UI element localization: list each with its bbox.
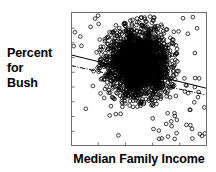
- scatter-point: [168, 95, 172, 99]
- scatter-point: [117, 134, 121, 138]
- scatter-point: [114, 112, 118, 116]
- scatter-point: [181, 16, 185, 20]
- scatter-point: [166, 111, 170, 115]
- scatter-point: [89, 25, 93, 29]
- scatter-point: [109, 104, 113, 108]
- scatter-point: [166, 135, 170, 139]
- scatter-point: [193, 51, 197, 55]
- scatter-point: [119, 112, 123, 116]
- scatter-points-layer: [72, 14, 207, 141]
- scatter-point: [193, 76, 197, 80]
- scatter-point: [114, 24, 118, 28]
- scatter-point: [164, 122, 168, 126]
- scatter-point: [116, 92, 120, 96]
- scatter-point: [105, 80, 109, 84]
- scatter-point: [152, 127, 156, 131]
- scatter-point: [128, 104, 132, 108]
- scatter-point: [160, 137, 164, 141]
- scatter-point: [195, 26, 199, 30]
- scatter-point: [97, 22, 101, 26]
- scatter-point: [173, 137, 177, 141]
- scatter-plot-figure: Percent for Bush Median Family Income: [0, 0, 216, 172]
- scatter-point: [98, 38, 102, 42]
- scatter-point: [110, 36, 114, 40]
- scatter-point: [183, 77, 187, 81]
- scatter-point: [196, 95, 200, 99]
- y-axis-label-line-3: Bush: [7, 76, 69, 91]
- scatter-point: [128, 19, 132, 23]
- scatter-point: [197, 77, 201, 81]
- scatter-point: [151, 117, 155, 121]
- scatter-point: [170, 124, 174, 128]
- scatter-point: [99, 53, 103, 57]
- scatter-point: [99, 92, 103, 96]
- scatter-point: [135, 17, 139, 21]
- scatter-point: [177, 30, 181, 34]
- scatter-point: [175, 118, 179, 122]
- scatter-point: [192, 100, 196, 104]
- scatter-point: [84, 107, 88, 111]
- scatter-point: [80, 44, 84, 48]
- y-axis-label-line-2: for: [7, 61, 69, 76]
- scatter-point: [91, 84, 95, 88]
- scatter-point: [73, 30, 77, 34]
- scatter-point: [148, 15, 152, 19]
- scatter-point: [169, 120, 173, 124]
- scatter-point: [172, 30, 176, 34]
- scatter-point: [108, 114, 112, 118]
- scatter-point: [175, 47, 179, 51]
- y-axis-label-line-1: Percent: [7, 46, 69, 61]
- scatter-point: [72, 44, 76, 48]
- scatter-point: [121, 105, 125, 109]
- scatter-point: [131, 18, 135, 22]
- scatter-point: [157, 129, 161, 133]
- scatter-point: [93, 17, 97, 21]
- scatter-point: [96, 14, 100, 18]
- scatter-point: [186, 32, 190, 36]
- scatter-point: [191, 15, 195, 19]
- x-axis-label: Median Family Income: [66, 152, 212, 166]
- scatter-point: [190, 127, 194, 131]
- scatter-point: [102, 96, 106, 100]
- scatter-point: [191, 137, 195, 141]
- y-axis-label: Percent for Bush: [7, 46, 69, 91]
- scatter-point: [174, 94, 178, 98]
- scatter-point: [175, 131, 179, 135]
- scatter-point: [78, 35, 82, 39]
- scatter-point: [202, 106, 206, 110]
- scatter-point: [185, 123, 189, 127]
- scatter-point: [189, 123, 193, 127]
- plot-area: [71, 12, 207, 146]
- plot-canvas: [71, 12, 207, 146]
